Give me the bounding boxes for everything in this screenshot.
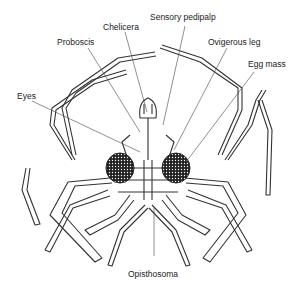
label-ovigerous-leg: Ovigerous leg [208,38,260,47]
label-eyes: Eyes [17,92,36,101]
label-chelicera: Chelicera [103,23,139,32]
label-opisthosoma: Opisthosoma [128,270,178,279]
label-sensory-pedipalp: Sensory pedipalp [150,13,216,22]
sea-spider-diagram: Sensory pedipalp Chelicera Proboscis Ovi… [0,0,296,294]
leader-lines [32,26,254,256]
right-egg-mass [162,153,190,183]
label-proboscis: Proboscis [57,38,94,47]
left-egg-mass [106,153,134,183]
label-egg-mass: Egg mass [248,60,286,69]
